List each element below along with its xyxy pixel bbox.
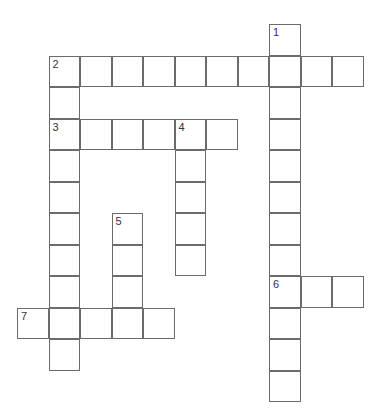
crossword-cell[interactable] [269,119,301,151]
crossword-cell[interactable] [49,87,81,119]
crossword-grid: 1623457 [0,0,384,416]
crossword-cell[interactable]: 2 [49,56,81,88]
crossword-cell[interactable]: 7 [17,308,49,340]
crossword-cell[interactable] [49,150,81,182]
crossword-cell[interactable] [269,339,301,371]
crossword-cell[interactable] [269,182,301,214]
crossword-cell[interactable] [49,245,81,277]
crossword-cell[interactable] [269,56,301,88]
crossword-cell[interactable] [269,87,301,119]
crossword-cell[interactable] [238,56,270,88]
crossword-cell[interactable] [332,276,364,308]
crossword-cell[interactable] [49,182,81,214]
crossword-cell[interactable] [269,308,301,340]
crossword-cell[interactable] [80,56,112,88]
crossword-cell[interactable] [175,182,207,214]
crossword-cell[interactable] [175,213,207,245]
crossword-cell[interactable] [112,245,144,277]
crossword-cell[interactable] [269,371,301,403]
clue-number: 4 [179,122,185,133]
clue-number: 7 [21,311,27,322]
crossword-cell[interactable] [175,245,207,277]
crossword-cell[interactable]: 5 [112,213,144,245]
crossword-cell[interactable] [112,308,144,340]
crossword-cell[interactable] [49,339,81,371]
crossword-cell[interactable]: 1 [269,24,301,56]
clue-number: 1 [273,27,279,38]
crossword-cell[interactable] [175,150,207,182]
crossword-cell[interactable] [301,56,333,88]
crossword-cell[interactable] [112,276,144,308]
clue-number: 5 [116,216,122,227]
crossword-cell[interactable]: 6 [269,276,301,308]
crossword-cell[interactable]: 4 [175,119,207,151]
crossword-cell[interactable] [269,245,301,277]
crossword-cell[interactable] [143,308,175,340]
crossword-cell[interactable] [143,119,175,151]
crossword-cell[interactable]: 3 [49,119,81,151]
crossword-cell[interactable] [112,56,144,88]
clue-number: 2 [53,59,59,70]
crossword-cell[interactable] [206,56,238,88]
clue-number: 3 [53,122,59,133]
crossword-cell[interactable] [80,119,112,151]
crossword-cell[interactable] [269,213,301,245]
crossword-cell[interactable] [269,150,301,182]
crossword-cell[interactable] [332,56,364,88]
crossword-cell[interactable] [112,119,144,151]
crossword-cell[interactable] [143,56,175,88]
crossword-cell[interactable] [206,119,238,151]
crossword-cell[interactable] [49,308,81,340]
crossword-cell[interactable] [49,213,81,245]
crossword-cell[interactable] [80,308,112,340]
clue-number: 6 [273,279,279,290]
crossword-cell[interactable] [175,56,207,88]
crossword-cell[interactable] [49,276,81,308]
crossword-cell[interactable] [301,276,333,308]
